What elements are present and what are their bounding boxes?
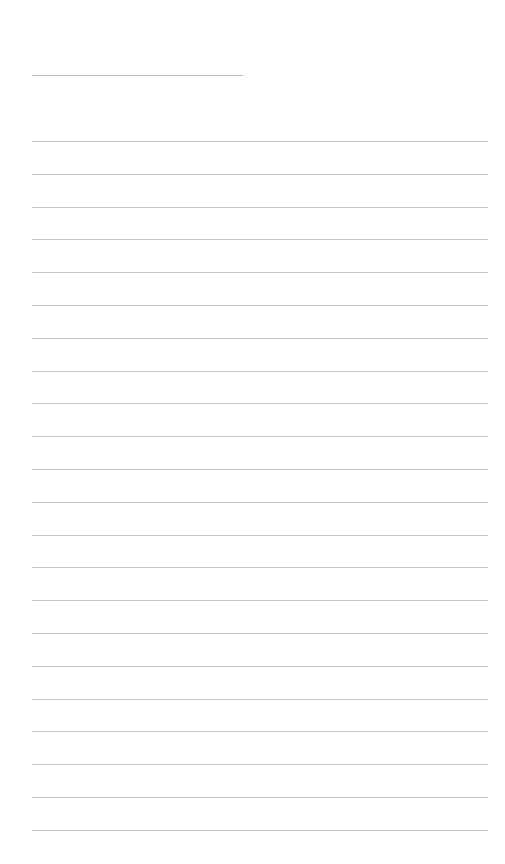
ruled-line (32, 338, 488, 339)
ruled-line (32, 305, 488, 306)
ruled-line (32, 731, 488, 732)
ruled-line (32, 797, 488, 798)
ruled-line (32, 666, 488, 667)
ruled-line (32, 371, 488, 372)
ruled-line (32, 272, 488, 273)
ruled-line (32, 239, 488, 240)
lined-paper-page (0, 0, 505, 864)
ruled-line (32, 535, 488, 536)
ruled-line (32, 633, 488, 634)
ruled-line (32, 699, 488, 700)
header-line (32, 75, 243, 76)
ruled-line (32, 600, 488, 601)
ruled-line (32, 567, 488, 568)
ruled-line (32, 502, 488, 503)
ruled-line (32, 403, 488, 404)
ruled-line (32, 436, 488, 437)
ruled-line (32, 174, 488, 175)
ruled-line (32, 830, 488, 831)
ruled-line (32, 207, 488, 208)
ruled-line (32, 141, 488, 142)
ruled-line (32, 469, 488, 470)
ruled-line (32, 764, 488, 765)
